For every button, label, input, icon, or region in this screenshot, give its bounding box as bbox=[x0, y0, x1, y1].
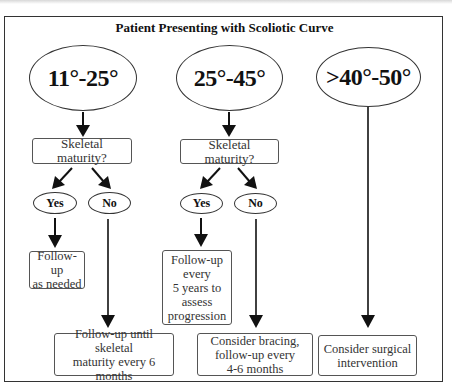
outcome-follow-up-every-5-years: Follow-up every 5 years to assess progre… bbox=[162, 250, 232, 325]
range-label: 25°-45° bbox=[194, 65, 266, 92]
outcome-follow-up-every-6-months: Follow-up until skeletal maturity every … bbox=[54, 333, 174, 376]
range-ellipse-11-25: 11°-25° bbox=[29, 45, 137, 111]
yes-ellipse-2: Yes bbox=[180, 193, 223, 214]
range-ellipse-40-50: >40°-50° bbox=[316, 47, 421, 107]
range-ellipse-25-45: 25°-45° bbox=[176, 45, 283, 111]
range-label: 11°-25° bbox=[48, 65, 118, 92]
skeletal-maturity-question-2: Skeletal maturity? bbox=[180, 139, 279, 164]
no-ellipse-1: No bbox=[88, 192, 131, 214]
skeletal-maturity-question-1: Skeletal maturity? bbox=[32, 138, 132, 164]
no-ellipse-2: No bbox=[234, 193, 277, 214]
outcome-follow-up-as-needed: Follow-up as needed bbox=[29, 251, 85, 289]
outcome-consider-bracing: Consider bracing, follow-up every 4-6 mo… bbox=[197, 333, 313, 376]
yes-ellipse-1: Yes bbox=[33, 192, 77, 214]
range-label: >40°-50° bbox=[326, 64, 411, 91]
outcome-consider-surgery: Consider surgical intervention bbox=[318, 335, 417, 376]
